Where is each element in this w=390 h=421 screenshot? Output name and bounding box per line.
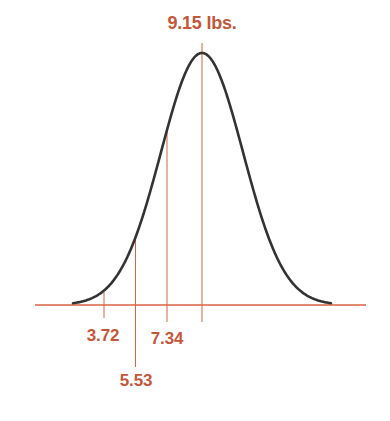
marker-label-3-72: 3.72	[87, 326, 119, 346]
mean-label: 9.15 lbs.	[167, 13, 236, 34]
marker-label-5-53: 5.53	[120, 371, 152, 391]
marker-label-7-34: 7.34	[151, 329, 183, 349]
bell-curve-chart	[0, 0, 390, 421]
